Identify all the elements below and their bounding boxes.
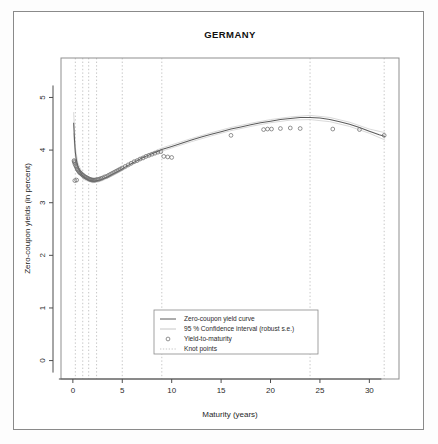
chart-page: GERMANY051015202530012345Maturity (years… <box>0 0 438 444</box>
y-tick-label: 3 <box>39 200 48 205</box>
x-tick-label: 20 <box>266 386 275 395</box>
y-tick-label: 0 <box>39 358 48 363</box>
chart-title: GERMANY <box>204 29 256 40</box>
yield-to-maturity-point <box>279 127 283 131</box>
yield-to-maturity-point <box>331 127 335 131</box>
yield-to-maturity-point <box>166 155 170 159</box>
yield-to-maturity-point <box>266 127 270 131</box>
yield-to-maturity-point <box>270 127 274 131</box>
legend-label: Yield-to-maturity <box>184 335 232 343</box>
x-tick-label: 30 <box>365 386 374 395</box>
y-tick-label: 4 <box>39 147 48 152</box>
legend-label: 95 % Confidence interval (robust s.e.) <box>184 325 294 333</box>
x-axis-title: Maturity (years) <box>202 410 258 419</box>
x-tick-label: 5 <box>120 386 125 395</box>
x-tick-label: 15 <box>217 386 226 395</box>
yield-to-maturity-point <box>298 127 302 131</box>
yield-to-maturity-point <box>170 156 174 160</box>
x-tick-label: 10 <box>167 386 176 395</box>
figure-frame: GERMANY051015202530012345Maturity (years… <box>13 11 424 430</box>
x-tick-label: 0 <box>71 386 76 395</box>
y-tick-label: 2 <box>39 253 48 258</box>
y-axis-title: Zero-coupon yields (in percent) <box>23 163 32 274</box>
legend-label: Zero-coupon yield curve <box>184 315 255 323</box>
yield-to-maturity-point <box>262 128 266 132</box>
yield-to-maturity-point <box>229 133 233 137</box>
x-tick-label: 25 <box>315 386 324 395</box>
yield-to-maturity-point <box>162 155 166 159</box>
yield-curve-chart: GERMANY051015202530012345Maturity (years… <box>14 12 423 429</box>
legend-label: Knot points <box>184 345 218 353</box>
y-tick-label: 5 <box>39 95 48 100</box>
yield-to-maturity-point <box>288 126 292 130</box>
y-tick-label: 1 <box>39 305 48 310</box>
